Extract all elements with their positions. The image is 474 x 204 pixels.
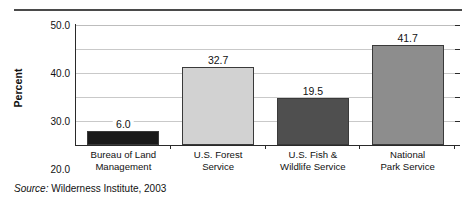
y-axis-right-tick [455,73,460,74]
y-axis-tick-label: 30.0 [36,116,70,127]
category-label: Bureau of LandManagement [76,149,171,172]
category-label-line: Bureau of Land [76,149,171,161]
source-label: Source: [14,183,48,194]
bar: 19.5 [277,98,349,145]
category-label: NationalPark Service [360,149,455,172]
y-axis-tick-label: 20.0 [36,164,70,175]
bar: 32.7 [182,67,254,145]
category-label-line: Service [171,161,266,173]
bar-value-label: 19.5 [300,85,326,97]
bar-slot: 19.5 [266,25,361,145]
y-axis-right-tick [455,97,460,98]
category-label-line: U.S. Forest [171,149,266,161]
chart-figure: Percent 0.010.020.030.040.050.0 6.032.71… [0,0,474,204]
y-axis-right-tick [455,145,460,146]
bar-value-label: 41.7 [394,32,420,44]
top-divider-rule [14,9,462,11]
source-note: Source: Wilderness Institute, 2003 [14,183,166,194]
bar-value-label: 32.7 [205,54,231,66]
category-label-line: Park Service [360,161,455,173]
category-label-line: U.S. Fish & [266,149,361,161]
bar: 6.0 [87,131,159,145]
category-label: U.S. Fish &Wildlife Service [266,149,361,172]
bar-slot: 41.7 [360,25,455,145]
bar-series: 6.032.719.541.7 [76,25,455,145]
y-axis-tick-label: 40.0 [36,68,70,79]
category-label-line: Wildlife Service [266,161,361,173]
category-label: U.S. ForestService [171,149,266,172]
bar-value-label: 6.0 [113,118,134,130]
plot-area: 0.010.020.030.040.050.0 6.032.719.541.7 [75,25,455,145]
bar-slot: 32.7 [171,25,266,145]
category-label-line: Management [76,161,171,173]
source-citation: Wilderness Institute, 2003 [51,183,166,194]
y-axis-right-tick [455,49,460,50]
y-axis-right-tick [455,25,460,26]
y-axis-title: Percent [12,53,28,123]
gridline: 0.0 [76,145,455,146]
category-axis-labels: Bureau of LandManagementU.S. ForestServi… [76,149,455,172]
bar: 41.7 [372,45,444,145]
y-axis-tick-label: 50.0 [36,20,70,31]
y-axis-right-tick [455,121,460,122]
category-label-line: National [360,149,455,161]
bar-slot: 6.0 [76,25,171,145]
